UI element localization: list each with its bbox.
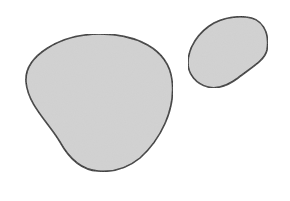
diagram-canvas bbox=[0, 0, 290, 201]
